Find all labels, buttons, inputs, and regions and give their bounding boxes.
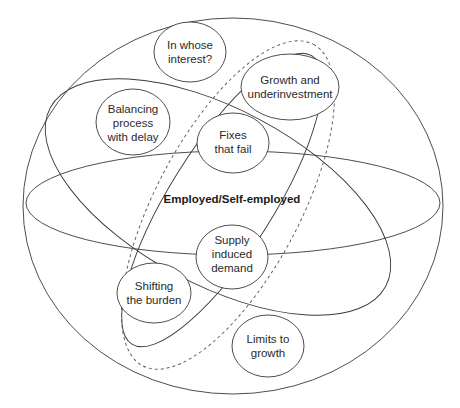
systems-archetypes-sphere-diagram: Employed/Self-employed In whose interest… xyxy=(0,0,460,408)
node-balancing-process-with-delay: Balancing process with delay xyxy=(96,89,170,155)
node-label-line: Balancing xyxy=(108,103,159,115)
node-fixes-that-fail: Fixes that fail xyxy=(197,113,269,173)
dashed-meridian xyxy=(79,11,377,400)
node-in-whose-interest: In whose interest? xyxy=(154,22,226,82)
node-label-line: Limits to xyxy=(247,333,290,345)
node-limits-to-growth: Limits to growth xyxy=(232,315,304,377)
node-label-line: the burden xyxy=(127,294,182,306)
center-label: Employed/Self-employed xyxy=(164,193,301,205)
node-label-line: growth xyxy=(251,347,286,359)
node-label-line: Supply xyxy=(214,234,249,246)
node-label-line: with delay xyxy=(106,131,158,143)
node-label-line: induced xyxy=(212,248,252,260)
node-label-line: Fixes xyxy=(219,129,247,141)
node-shifting-the-burden: Shifting the burden xyxy=(117,263,191,323)
node-label-line: interest? xyxy=(168,53,212,65)
node-label-line: Growth and xyxy=(260,74,319,86)
node-label-line: Shifting xyxy=(135,280,173,292)
node-label-line: underinvestment xyxy=(247,88,333,100)
node-label-line: process xyxy=(113,117,154,129)
node-growth-and-underinvestment: Growth and underinvestment xyxy=(241,54,339,120)
node-label-line: demand xyxy=(211,262,253,274)
node-label-line: that fail xyxy=(214,143,251,155)
node-supply-induced-demand: Supply induced demand xyxy=(196,225,268,289)
node-label-line: In whose xyxy=(167,39,213,51)
